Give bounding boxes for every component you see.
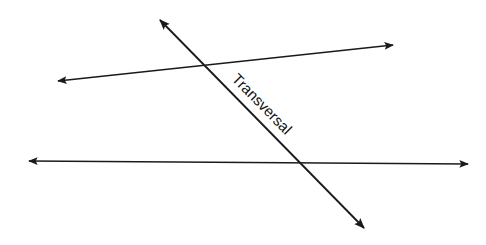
lower-line xyxy=(29,161,468,164)
upper-line xyxy=(58,45,393,81)
transversal-diagram xyxy=(0,0,486,245)
